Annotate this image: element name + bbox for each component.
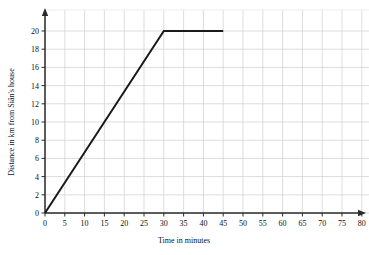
y-axis-title: Distance in km from Siân's house bbox=[7, 68, 16, 176]
chart-canvas: 05101520253035404550556065707580 0246810… bbox=[0, 0, 369, 255]
y-tick-label: 18 bbox=[31, 45, 39, 54]
y-tick-label: 12 bbox=[31, 100, 39, 109]
x-tick-label: 0 bbox=[43, 219, 47, 228]
x-tick-label: 75 bbox=[338, 219, 346, 228]
x-tick-label: 35 bbox=[180, 219, 188, 228]
y-tick-label: 4 bbox=[35, 173, 39, 182]
x-tick-label: 45 bbox=[219, 219, 227, 228]
x-tick-label: 40 bbox=[199, 219, 207, 228]
y-tick-label: 16 bbox=[31, 63, 39, 72]
x-tick-label: 5 bbox=[63, 219, 67, 228]
y-tick-label: 0 bbox=[35, 209, 39, 218]
y-tick-label: 8 bbox=[35, 136, 39, 145]
y-tick-label: 6 bbox=[35, 154, 39, 163]
x-tick-label: 65 bbox=[298, 219, 306, 228]
y-tick-label: 2 bbox=[35, 191, 39, 200]
x-axis-title: Time in minutes bbox=[158, 236, 210, 245]
x-tick-label: 80 bbox=[358, 219, 366, 228]
x-tick-label: 50 bbox=[239, 219, 247, 228]
y-tick-label: 14 bbox=[31, 82, 39, 91]
x-tick-label: 70 bbox=[318, 219, 326, 228]
distance-time-chart: 05101520253035404550556065707580 0246810… bbox=[0, 0, 369, 255]
x-tick-label: 55 bbox=[259, 219, 267, 228]
y-tick-label: 20 bbox=[31, 27, 39, 36]
x-tick-label: 60 bbox=[279, 219, 287, 228]
chart-background bbox=[0, 0, 369, 255]
x-tick-label: 10 bbox=[81, 219, 89, 228]
x-tick-label: 30 bbox=[160, 219, 168, 228]
y-tick-label: 10 bbox=[31, 118, 39, 127]
x-tick-label: 15 bbox=[100, 219, 108, 228]
x-tick-label: 25 bbox=[140, 219, 148, 228]
x-tick-label: 20 bbox=[120, 219, 128, 228]
